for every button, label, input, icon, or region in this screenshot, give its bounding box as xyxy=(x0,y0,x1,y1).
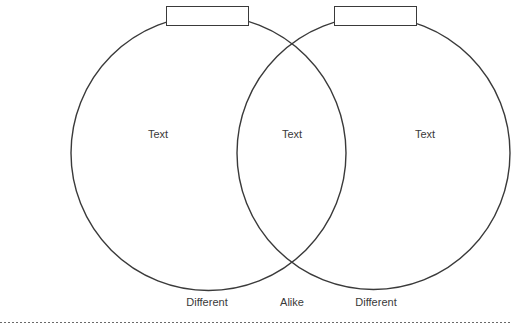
right-circle-text[interactable]: Text xyxy=(415,129,435,140)
right-title-box[interactable] xyxy=(335,7,417,26)
venn-diagram xyxy=(0,0,511,328)
right-circle xyxy=(237,17,510,290)
left-circle-text[interactable]: Text xyxy=(148,129,168,140)
bottom-label-left: Different xyxy=(186,297,227,308)
left-title-box[interactable] xyxy=(167,7,249,26)
bottom-label-right: Different xyxy=(355,297,396,308)
left-circle xyxy=(71,16,346,291)
bottom-label-center: Alike xyxy=(280,297,304,308)
overlap-text[interactable]: Text xyxy=(282,129,302,140)
